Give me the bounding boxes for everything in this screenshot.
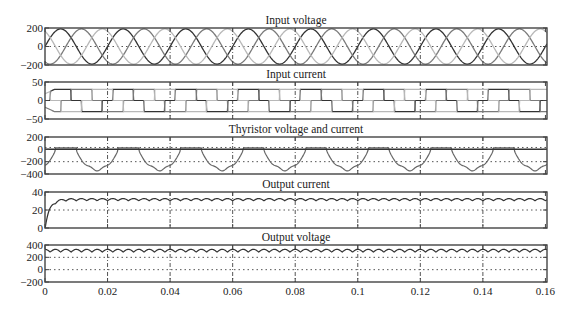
panel-title: Input current [266, 68, 327, 81]
series-line [45, 199, 547, 230]
y-tick-label: 200 [27, 22, 44, 34]
panel-input-voltage: Input voltage2000−200 [20, 14, 547, 71]
x-tick-label: 0 [42, 285, 48, 297]
waveform-figure: Input voltage2000−200Input current500−50… [0, 0, 569, 313]
y-tick-label: 0 [38, 94, 44, 106]
x-tick-label: 0.04 [160, 285, 180, 297]
series-line [45, 29, 547, 64]
y-tick-label: 400 [27, 239, 44, 251]
panel-output-current: Output current40200 [32, 178, 547, 234]
x-tick-label: 0.08 [286, 285, 306, 297]
panel-frame [45, 192, 547, 228]
y-tick-label: −200 [20, 59, 43, 71]
x-tick-label: 0.1 [351, 285, 365, 297]
panel-title: Output current [262, 178, 330, 191]
y-tick-label: 200 [27, 131, 44, 143]
y-tick-label: 0 [38, 263, 44, 275]
panel-output-voltage: Output voltage4002000−200 [20, 231, 547, 288]
y-tick-label: 0 [38, 40, 44, 52]
series-line [45, 148, 547, 171]
panel-thyristor-voltage-and-current: Thyristor voltage and current2000−200−40… [20, 123, 547, 180]
x-tick-label: 0.14 [473, 285, 493, 297]
y-tick-label: 50 [32, 76, 44, 88]
x-tick-label: 0.12 [411, 285, 430, 297]
x-tick-label: 0.16 [536, 285, 556, 297]
series-line [45, 249, 547, 252]
y-tick-label: −200 [20, 276, 43, 288]
y-tick-label: 20 [32, 204, 44, 216]
y-tick-label: 200 [27, 251, 44, 263]
y-tick-label: 0 [38, 143, 44, 155]
panel-frame [45, 137, 547, 174]
y-tick-label: −400 [20, 168, 43, 180]
panel-title: Thyristor voltage and current [229, 123, 364, 136]
y-tick-label: −50 [26, 113, 44, 125]
panel-title: Output voltage [262, 231, 331, 244]
panel-title: Input voltage [266, 14, 327, 27]
x-tick-label: 0.06 [223, 285, 243, 297]
y-tick-label: 40 [32, 186, 44, 198]
y-tick-label: −200 [20, 155, 43, 167]
y-tick-label: 0 [38, 222, 44, 234]
x-tick-label: 0.02 [98, 285, 117, 297]
panel-input-current: Input current500−50 [26, 68, 547, 125]
